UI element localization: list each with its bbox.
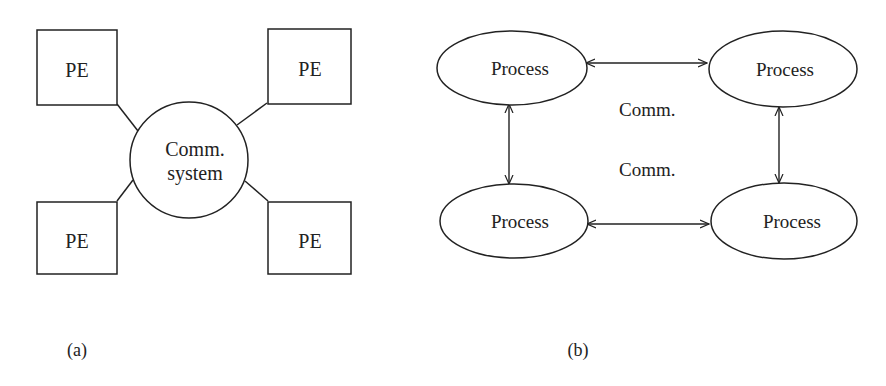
process-label: Process: [763, 211, 821, 232]
comm-label-upper: Comm.: [619, 99, 675, 120]
process-node-top-right: Process: [709, 31, 857, 107]
pe-label: PE: [65, 59, 88, 81]
pe-node-bottom-left: PE: [37, 202, 117, 274]
connector-line: [245, 181, 268, 201]
caption-b: (b): [568, 340, 589, 361]
comm-system-node: Comm. system: [130, 102, 248, 218]
pe-label: PE: [298, 230, 321, 252]
comm-system-label-line1: Comm.: [165, 138, 224, 160]
process-node-top-left: Process: [437, 31, 587, 105]
comm-label-lower: Comm.: [619, 159, 675, 180]
figure-canvas: PE PE PE PE Comm. system (a): [0, 0, 886, 386]
figure-b: Process Process Process Process Comm. Co…: [437, 31, 857, 361]
pe-node-top-right: PE: [268, 29, 351, 104]
connector-line: [117, 104, 138, 131]
pe-node-bottom-right: PE: [268, 202, 351, 274]
connector-line: [237, 103, 267, 125]
connector-line: [117, 180, 133, 201]
pe-label: PE: [65, 230, 88, 252]
process-label: Process: [491, 58, 549, 79]
process-label: Process: [756, 59, 814, 80]
process-node-bottom-right: Process: [711, 183, 857, 259]
caption-a: (a): [67, 340, 87, 361]
process-label: Process: [491, 211, 549, 232]
figure-a: PE PE PE PE Comm. system (a): [37, 29, 351, 361]
process-node-bottom-left: Process: [440, 184, 588, 258]
comm-system-label-line2: system: [167, 162, 223, 185]
pe-node-top-left: PE: [37, 30, 117, 105]
pe-label: PE: [298, 58, 321, 80]
